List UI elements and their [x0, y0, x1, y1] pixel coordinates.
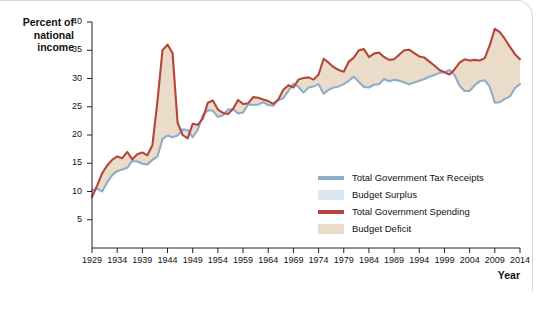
- y-tick-label: 15: [56, 157, 82, 167]
- x-tick-label: 1989: [380, 255, 408, 265]
- x-tick-label: 1949: [179, 255, 207, 265]
- x-tick-label: 1929: [78, 255, 106, 265]
- legend-item-government-spending: Total Government Spending: [318, 204, 518, 219]
- legend-label-tax-receipts: Total Government Tax Receipts: [352, 172, 484, 183]
- x-tick-label: 1979: [330, 255, 358, 265]
- x-tick-label: 2014: [506, 255, 534, 265]
- x-tick-label: 1994: [405, 255, 433, 265]
- legend-item-tax-receipts: Total Government Tax Receipts: [318, 170, 518, 185]
- legend-swatch-budget-deficit: [318, 224, 344, 234]
- x-tick-label: 1939: [128, 255, 156, 265]
- legend-item-budget-deficit: Budget Deficit: [318, 221, 518, 236]
- x-tick-label: 2009: [481, 255, 509, 265]
- budget-deficit-areas: [96, 29, 520, 192]
- y-tick-label: 25: [56, 101, 82, 111]
- legend-label-budget-deficit: Budget Deficit: [352, 223, 411, 234]
- x-axis-title: Year: [474, 269, 520, 282]
- x-tick-label: 1959: [229, 255, 257, 265]
- budget-deficit-band: [452, 29, 520, 103]
- x-tick-label: 1974: [305, 255, 333, 265]
- y-tick-label: 5: [56, 214, 82, 224]
- x-tick-label: 1964: [254, 255, 282, 265]
- y-tick-label: 20: [56, 129, 82, 139]
- x-tick-label: 1984: [355, 255, 383, 265]
- legend-label-budget-surplus: Budget Surplus: [352, 189, 417, 200]
- x-tick-label: 1954: [204, 255, 232, 265]
- legend-swatch-tax-receipts: [318, 176, 344, 180]
- legend-swatch-government-spending: [318, 210, 344, 214]
- y-tick-label: 40: [56, 16, 82, 26]
- legend-item-budget-surplus: Budget Surplus: [318, 187, 518, 202]
- legend-label-government-spending: Total Government Spending: [352, 206, 470, 217]
- x-tick-label: 1934: [103, 255, 131, 265]
- y-tick-label: 35: [56, 44, 82, 54]
- x-tick-label: 1969: [279, 255, 307, 265]
- x-tick-label: 2004: [456, 255, 484, 265]
- chart-figure: Percent of national income 5101520253035…: [0, 0, 545, 323]
- legend-swatch-budget-surplus: [318, 190, 344, 200]
- y-tick-label: 10: [56, 186, 82, 196]
- x-tick-label: 1944: [154, 255, 182, 265]
- budget-deficit-band: [96, 45, 182, 192]
- x-tick-label: 1999: [430, 255, 458, 265]
- chart-legend: Total Government Tax Receipts Budget Sur…: [318, 170, 518, 238]
- y-tick-label: 30: [56, 73, 82, 83]
